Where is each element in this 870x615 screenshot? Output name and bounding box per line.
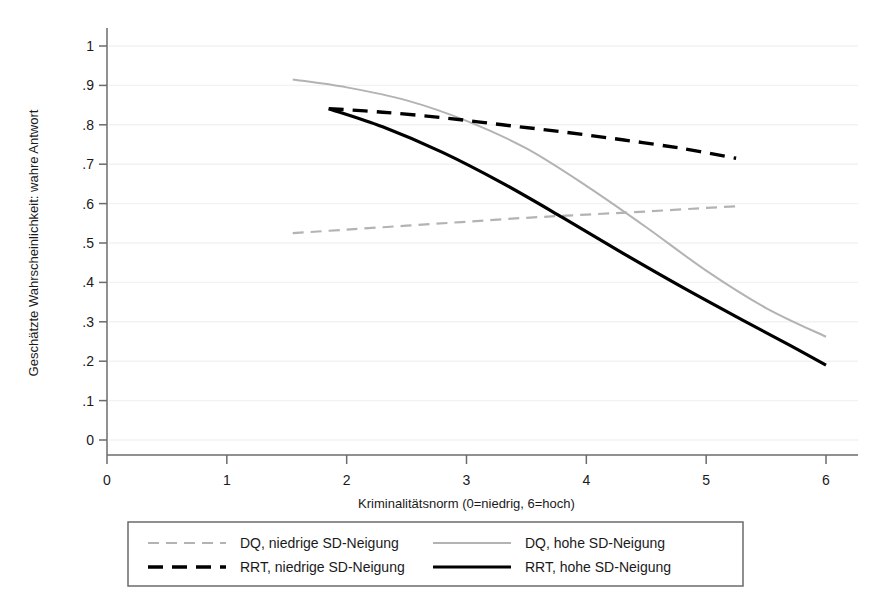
chart-figure: 0.1.2.3.4.5.6.7.8.910123456 Kriminalität…	[0, 0, 870, 615]
series-line-1	[293, 79, 826, 336]
legend-label-3: RRT, hohe SD-Neigung	[525, 559, 671, 575]
y-axis-title: Geschätzte Wahrscheinlichkeit: wahre Ant…	[26, 109, 41, 376]
legend-label-2: RRT, niedrige SD-Neigung	[240, 559, 405, 575]
legend-label-0: DQ, niedrige SD-Neigung	[240, 535, 399, 551]
legend-box	[128, 522, 743, 586]
x-axis-title: Kriminalitätsnorm (0=niedrig, 6=hoch)	[358, 496, 575, 511]
legend-label-1: DQ, hohe SD-Neigung	[525, 535, 665, 551]
probability-line-chart: 0.1.2.3.4.5.6.7.8.910123456 Kriminalität…	[0, 0, 870, 615]
y-tick-label: .3	[82, 314, 94, 330]
grid-lines	[109, 46, 858, 440]
y-tick-label: .9	[82, 77, 94, 93]
chart-legend: DQ, niedrige SD-NeigungDQ, hohe SD-Neigu…	[128, 522, 743, 586]
y-tick-label: .8	[82, 117, 94, 133]
y-tick-label: 1	[86, 38, 94, 54]
x-tick-label: 6	[822, 472, 830, 488]
axes	[107, 28, 858, 455]
y-tick-label: .5	[82, 235, 94, 251]
y-tick-label: .2	[82, 353, 94, 369]
y-tick-label: .1	[82, 393, 94, 409]
axis-ticks: 0.1.2.3.4.5.6.7.8.910123456	[82, 38, 830, 488]
x-tick-label: 0	[103, 472, 111, 488]
x-tick-label: 5	[702, 472, 710, 488]
y-tick-label: .4	[82, 274, 94, 290]
y-tick-label: .6	[82, 196, 94, 212]
x-tick-label: 2	[343, 472, 351, 488]
axis-titles: Kriminalitätsnorm (0=niedrig, 6=hoch)Ges…	[26, 109, 575, 511]
series-line-0	[293, 206, 736, 233]
x-tick-label: 4	[582, 472, 590, 488]
y-tick-label: .7	[82, 156, 94, 172]
x-tick-label: 1	[223, 472, 231, 488]
series-line-3	[329, 109, 826, 365]
y-tick-label: 0	[86, 432, 94, 448]
x-tick-label: 3	[463, 472, 471, 488]
